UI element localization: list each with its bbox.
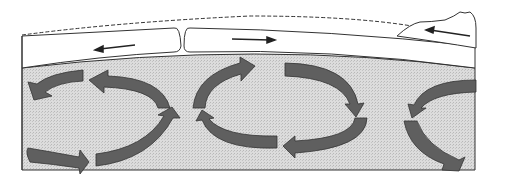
mantle-convection-diagram bbox=[0, 0, 507, 193]
